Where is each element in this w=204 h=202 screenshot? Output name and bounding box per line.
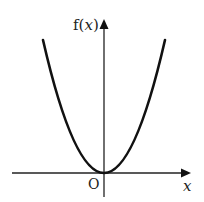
parabola-graph: f(x) O x [0, 0, 204, 202]
x-axis-label: x [183, 177, 192, 195]
y-axis-arrow-icon [100, 19, 109, 29]
y-axis-label: f(x) [73, 16, 99, 34]
origin-label: O [88, 176, 99, 192]
